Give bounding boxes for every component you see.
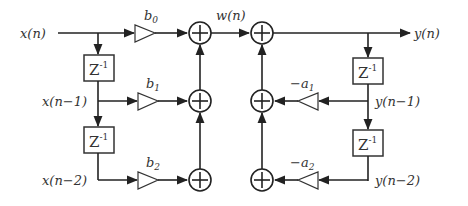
gain-b0-triangle	[135, 25, 155, 42]
gain-a1-triangle	[298, 93, 318, 110]
adder-mid-right	[251, 90, 273, 112]
gain-a1-label: −a1	[290, 76, 314, 93]
x-n-1-label: x(n−1)	[42, 94, 87, 109]
intermediate-label: w(n)	[216, 8, 246, 23]
y-n-1-label: y(n−1)	[374, 94, 420, 109]
gain-b2-triangle	[138, 172, 158, 189]
gain-b1-label: b1	[146, 76, 160, 93]
adder-mid-left	[189, 90, 211, 112]
gain-b1-triangle	[138, 93, 158, 110]
gain-b0-label: b0	[144, 8, 158, 25]
gain-a2-label: −a2	[290, 155, 315, 172]
gain-a2-triangle	[298, 172, 318, 189]
adder-bottom-right	[251, 169, 273, 191]
y-n-2-label: y(n−2)	[374, 173, 420, 188]
adder-top-left	[189, 22, 211, 44]
x-n-2-label: x(n−2)	[42, 173, 87, 188]
gain-b2-label: b2	[146, 155, 160, 172]
adder-bottom-left	[189, 169, 211, 191]
input-label: x(n)	[20, 26, 46, 41]
adder-top-right	[251, 22, 273, 44]
iir-filter-diagram: x(n) b0 Z-1 x(n−1) b1 Z-1 x(n−2) b2 w(n)	[0, 0, 468, 206]
output-label: y(n)	[413, 26, 440, 41]
